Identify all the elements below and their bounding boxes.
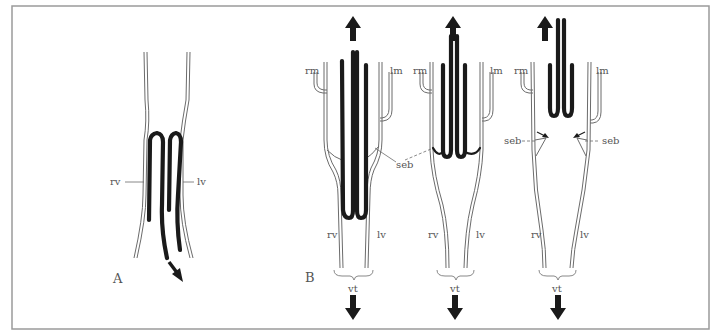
stage-1-rv-label: rv	[327, 229, 338, 240]
panel-a-right-vessel-inner-wall	[137, 52, 149, 258]
stage-2-lm-label: lm	[490, 65, 503, 76]
stage-1-fold-outer-left	[342, 52, 353, 218]
stage-2-fold-left	[443, 36, 451, 157]
stage-3-rm-label: rm	[514, 65, 529, 76]
stage-3-lv-label: lv	[580, 229, 589, 240]
stage-2-vt-brace	[437, 270, 474, 280]
stage-2-vt-label: vt	[449, 283, 460, 294]
stage-2-rm-label: rm	[413, 65, 428, 76]
stage-1-rm-label: rm	[305, 65, 320, 76]
stage-3-lm-label: lm	[596, 65, 609, 76]
stage-1-fold-outer-right	[357, 52, 366, 218]
stage-3-fold-left	[550, 20, 558, 116]
panel-a-fold-left	[149, 133, 167, 258]
stage-3-lm-branch	[590, 72, 601, 123]
panel-b-label: B	[305, 270, 315, 285]
panel-a-lv-label: lv	[197, 176, 206, 187]
stage-3-rv-label: rv	[531, 229, 542, 240]
stage-1-seb-label: seb	[396, 159, 413, 170]
panel-b-stage-1: seb rm lm rv lv vt B	[305, 16, 413, 320]
panel-a-fold-right	[169, 133, 181, 250]
stage-1-vt-label: vt	[347, 283, 358, 294]
panel-a-rv-label: rv	[110, 176, 121, 187]
panel-b-stage-2: rm lm rv lv vt	[405, 16, 503, 320]
stage-2-down-arrow-icon	[447, 295, 463, 320]
stage-2-lm-branch	[482, 72, 493, 121]
stage-3-vt-brace	[539, 270, 576, 280]
stage-1-vt-brace	[334, 270, 373, 280]
diagram-figure: rv lv A seb rm lm	[0, 0, 713, 334]
stage-3-seb-right-label: seb	[602, 135, 619, 146]
stage-2-lv-label: lv	[476, 229, 485, 240]
stage-3-left-pointer-arrow-icon	[537, 132, 549, 138]
stage-3-vt-label: vt	[551, 283, 562, 294]
panel-a-arrow-icon	[169, 262, 183, 282]
stage-1-up-arrow-icon	[345, 16, 361, 41]
stage-3-up-arrow-icon	[537, 16, 553, 41]
stage-2-rv-label: rv	[428, 229, 439, 240]
stage-3-right-pointer-arrow-icon	[573, 132, 585, 138]
stage-2-scallop-right	[465, 148, 480, 154]
stage-3-seb-left-label: seb	[504, 135, 521, 146]
stage-1-lv-label: lv	[377, 229, 386, 240]
stage-3-down-arrow-icon	[550, 295, 566, 320]
stage-3-seb-left	[535, 138, 546, 156]
stage-1-down-arrow-icon	[345, 295, 361, 320]
panel-a-left-vessel-inner-wall	[183, 52, 193, 258]
panel-b-stage-3: seb seb rm lm rv lv vt	[504, 16, 619, 320]
panel-a-label: A	[112, 271, 123, 286]
panel-a: rv lv A	[110, 52, 206, 286]
panel-a-right-vessel-outer-wall	[134, 52, 146, 258]
stage-2-fold-right	[457, 36, 465, 157]
stage-1-lm-label: lm	[390, 65, 403, 76]
stage-1-lm-branch-inner	[380, 72, 389, 118]
stage-3-fold-right	[564, 20, 572, 116]
